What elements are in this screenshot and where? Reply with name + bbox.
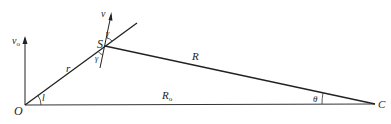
vector-label-v0: vo: [12, 36, 20, 48]
segment-R0: [25, 104, 375, 105]
vector-label-v0-sub: o: [16, 40, 20, 48]
point-label-S: S: [97, 38, 103, 50]
segment-label-R0-main: R: [162, 89, 169, 101]
angle-label-gamma-top: γ: [106, 30, 109, 38]
angle-arc-theta: [322, 93, 323, 104]
point-label-C: C: [378, 99, 385, 110]
segment-label-R0: Ro: [162, 90, 172, 103]
angle-arc-gamma-top: [107, 38, 112, 41]
diagram-canvas: O S C r R Ro vo v l γ γ θ: [0, 0, 391, 124]
segment-label-R0-sub: o: [169, 95, 173, 103]
segment-R: [105, 46, 375, 104]
angle-label-gamma-bottom: γ: [95, 55, 98, 63]
point-label-O: O: [14, 105, 23, 117]
angle-label-l: l: [42, 93, 45, 103]
arrowhead-v0: [23, 36, 28, 44]
arrowhead-v: [109, 12, 113, 21]
angle-label-theta: θ: [313, 95, 317, 104]
segment-label-R: R: [192, 51, 199, 62]
diagram-lines: [0, 0, 391, 124]
angle-arc-gamma-bottom: [98, 51, 103, 55]
angle-arc-l: [38, 96, 41, 106]
segment-label-r: r: [66, 63, 70, 74]
vector-label-v: v: [101, 9, 105, 19]
